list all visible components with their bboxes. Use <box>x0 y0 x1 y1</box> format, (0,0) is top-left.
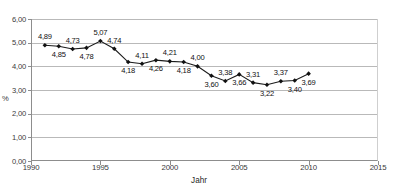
data-point-label: 4,00 <box>191 53 205 62</box>
data-point-label: 4,18 <box>121 66 135 75</box>
series-markers <box>43 39 311 87</box>
data-point-marker <box>306 71 311 76</box>
data-point-marker <box>279 79 284 84</box>
data-point-marker <box>154 58 159 63</box>
data-point-label: 3,69 <box>302 78 316 87</box>
data-point-label: 4,21 <box>163 48 177 57</box>
data-point-label: 4,74 <box>107 36 121 45</box>
data-point-label: 4,18 <box>177 66 191 75</box>
data-point-label: 4,73 <box>66 36 80 45</box>
data-point-label: 3,60 <box>204 80 218 89</box>
data-point-label: 4,26 <box>149 64 163 73</box>
data-point-marker <box>140 61 145 66</box>
data-point-marker <box>265 82 270 87</box>
data-point-marker <box>223 79 228 84</box>
data-point-label: 3,40 <box>288 85 302 94</box>
data-point-label: 3,66 <box>232 78 246 87</box>
data-point-label: 4,11 <box>135 51 148 60</box>
data-point-marker <box>237 72 242 77</box>
data-point-marker <box>251 80 256 85</box>
data-point-marker <box>98 39 103 44</box>
data-series-line <box>0 0 398 191</box>
data-point-marker <box>70 47 75 52</box>
data-point-label: 4,78 <box>80 52 94 61</box>
data-point-label: 3,38 <box>218 68 232 77</box>
data-point-marker <box>43 43 48 48</box>
chart-figure: 0,001,002,003,004,005,006,00 % 199019952… <box>0 0 398 191</box>
data-point-marker <box>181 60 186 65</box>
data-point-marker <box>84 46 89 51</box>
data-point-marker <box>168 59 173 64</box>
data-point-label: 3,22 <box>260 89 274 98</box>
data-point-label: 5,07 <box>93 28 107 37</box>
data-point-marker <box>292 78 297 83</box>
data-point-label: 4,85 <box>52 50 66 59</box>
data-point-label: 3,37 <box>274 68 288 77</box>
data-point-label: 4,89 <box>38 32 52 41</box>
data-point-label: 3,31 <box>246 70 260 79</box>
data-point-marker <box>56 44 61 49</box>
